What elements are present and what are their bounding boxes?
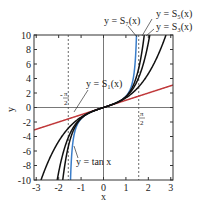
label-s5: y = S₅(x) [156, 8, 192, 20]
y-tick-label: 10 [21, 30, 31, 41]
label-neg-pi-2-sign: - [60, 91, 63, 100]
x-axis-label: x [101, 191, 106, 202]
y-tick-label: -2 [23, 117, 31, 128]
x-tick-label: -2 [54, 182, 62, 193]
x-tick-label: -3 [32, 182, 40, 193]
label-s1: y = S₁(x) [86, 78, 122, 90]
y-tick-label: -10 [18, 175, 31, 186]
label-neg-pi-2-den: 2 [64, 99, 68, 107]
label-neg-pi-2-num: π [64, 90, 68, 98]
x-tick-label: 1 [123, 182, 128, 193]
x-tick-label: 2 [146, 182, 151, 193]
leader-line [74, 90, 88, 112]
y-tick-label: 6 [26, 59, 31, 70]
label-s3: y = S₃(x) [156, 21, 192, 33]
y-tick-label: 8 [26, 44, 31, 55]
y-tick-label: 4 [26, 73, 31, 84]
annotations: y = S₇(x) y = S₅(x) y = S₃(x) y = S₁(x) … [5, 8, 192, 202]
y-tick-label: -8 [23, 160, 31, 171]
label-pi-2-num: π [140, 110, 144, 118]
x-tick-label: -1 [77, 182, 85, 193]
chart: -3-2-101231086420-2-4-6-8-10 y = S₇(x) y… [0, 0, 204, 203]
x-tick-label: 3 [168, 182, 173, 193]
label-s7: y = S₇(x) [104, 15, 140, 27]
label-pi-2-den: 2 [140, 119, 144, 127]
label-tan: y = tan x [76, 156, 111, 167]
axes: -3-2-101231086420-2-4-6-8-10 [18, 30, 174, 194]
y-axis-label: y [5, 107, 16, 112]
y-tick-label: -6 [23, 146, 31, 157]
leader-line [142, 19, 152, 36]
y-tick-label: 2 [26, 88, 31, 99]
y-tick-label: -4 [23, 131, 31, 142]
y-tick-label: 0 [26, 102, 31, 113]
